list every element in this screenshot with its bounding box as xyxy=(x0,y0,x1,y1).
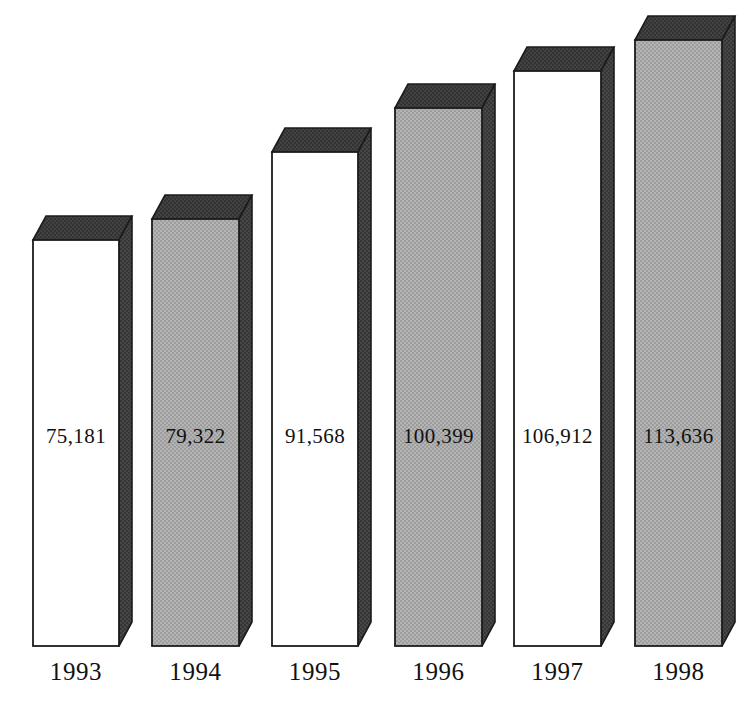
category-label-1997: 1997 xyxy=(508,658,607,686)
bar-side-face xyxy=(601,47,614,646)
bar-front-face xyxy=(395,108,482,646)
bar-value-label-1998: 113,636 xyxy=(635,424,722,449)
bar-1997 xyxy=(514,47,614,646)
category-label-1993: 1993 xyxy=(27,658,125,686)
bar-front-face xyxy=(272,152,358,646)
category-label-1995: 1995 xyxy=(266,658,364,686)
bar-front-face xyxy=(514,71,601,646)
bar-side-face xyxy=(119,216,132,646)
category-label-1998: 1998 xyxy=(629,658,728,686)
category-label-1996: 1996 xyxy=(389,658,488,686)
bar-1998 xyxy=(635,16,735,646)
bar-value-label-1997: 106,912 xyxy=(514,424,601,449)
bar-top-face xyxy=(395,84,495,108)
bar-front-face xyxy=(635,40,722,646)
category-label-1994: 1994 xyxy=(146,658,245,686)
bar-top-face xyxy=(514,47,614,71)
bar-chart: 75,18179,32291,568100,399106,912113,636 … xyxy=(0,0,756,710)
bar-value-label-1995: 91,568 xyxy=(272,424,358,449)
bar-top-face xyxy=(635,16,735,40)
bar-chart-canvas xyxy=(0,0,756,710)
bar-top-face xyxy=(272,128,371,152)
bar-side-face xyxy=(358,128,371,646)
bar-1994 xyxy=(152,195,252,646)
bar-value-label-1993: 75,181 xyxy=(33,424,119,449)
bar-value-label-1996: 100,399 xyxy=(395,424,482,449)
bar-top-face xyxy=(152,195,252,219)
bar-side-face xyxy=(239,195,252,646)
bar-1995 xyxy=(272,128,371,646)
bar-value-label-1994: 79,322 xyxy=(152,424,239,449)
bar-1996 xyxy=(395,84,495,646)
bars-group xyxy=(33,16,735,646)
bar-top-face xyxy=(33,216,132,240)
bar-side-face xyxy=(722,16,735,646)
bar-side-face xyxy=(482,84,495,646)
